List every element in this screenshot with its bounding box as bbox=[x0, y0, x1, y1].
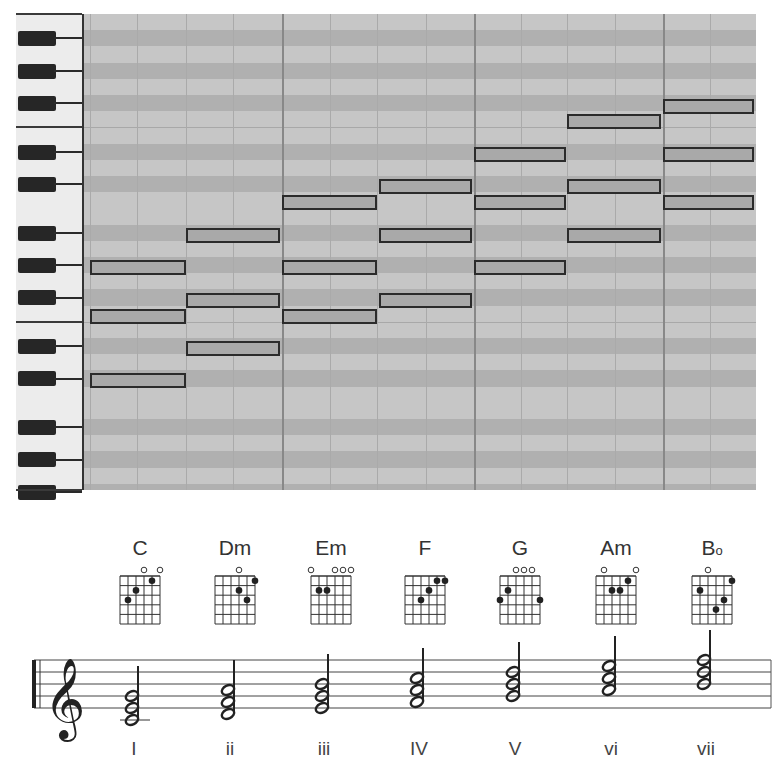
roman-numeral-label: IV bbox=[394, 738, 444, 760]
treble-clef-icon: 𝄞 bbox=[44, 657, 85, 742]
roman-numeral-label: I bbox=[109, 738, 159, 760]
roman-numeral-label: vii bbox=[681, 738, 731, 760]
roman-numeral-label: ii bbox=[205, 738, 255, 760]
roman-numeral-label: iii bbox=[299, 738, 349, 760]
staff-notation: 𝄞 bbox=[0, 0, 783, 771]
roman-numeral-label: vi bbox=[586, 738, 636, 760]
roman-numeral-label: V bbox=[490, 738, 540, 760]
